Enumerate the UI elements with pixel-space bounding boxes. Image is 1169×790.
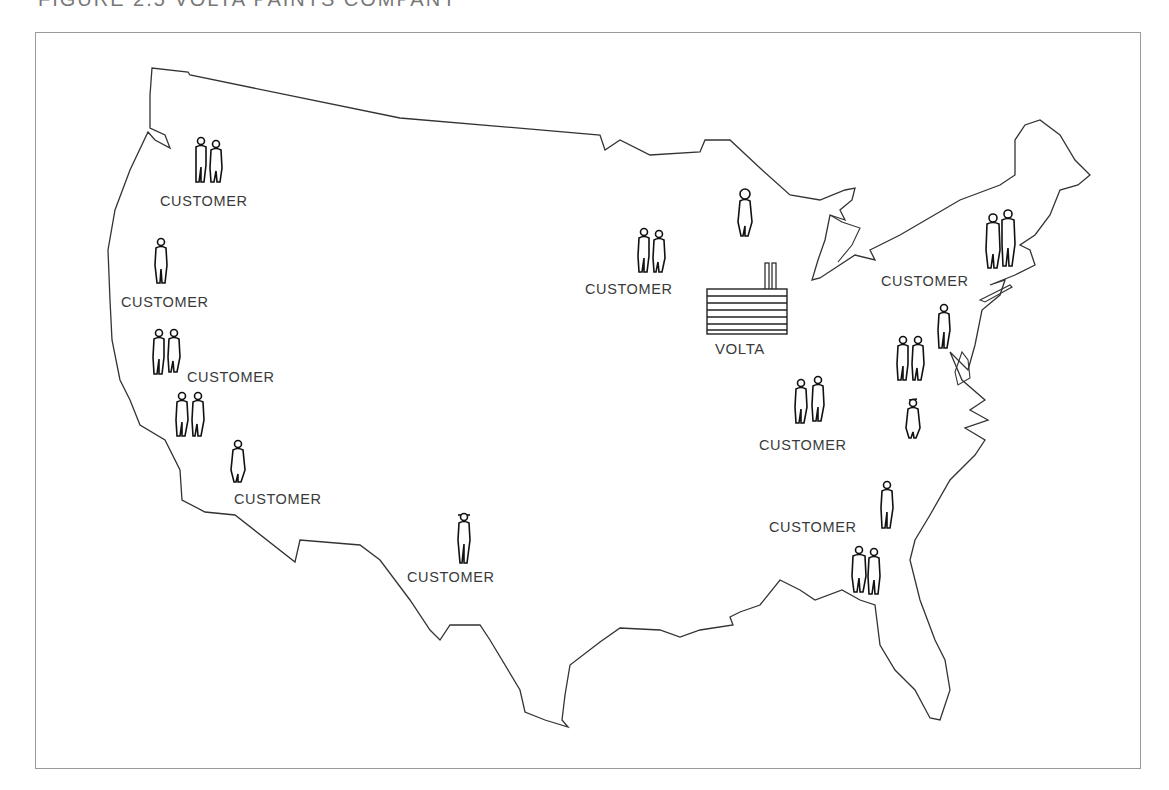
customer-pair-icon <box>192 135 226 185</box>
customer-mid-atlantic <box>894 334 928 386</box>
customer-single-icon <box>735 188 755 240</box>
customer-pair-icon <box>792 375 828 425</box>
customer-pair-icon <box>984 208 1018 272</box>
customer-midwest <box>635 226 669 280</box>
customer-single-icon <box>878 480 896 532</box>
customer-single-icon <box>455 510 473 566</box>
customer-carolinas <box>878 480 896 536</box>
customer-label: CUSTOMER <box>234 491 322 507</box>
customer-label: CUSTOMER <box>187 369 275 385</box>
customer-pair-icon <box>635 226 669 276</box>
customer-label: CUSTOMER <box>121 294 209 310</box>
customer-texas <box>455 510 473 570</box>
customer-pair-icon <box>894 334 928 382</box>
customer-great-lakes <box>735 188 755 244</box>
customer-southeast <box>850 544 884 600</box>
customer-label: CUSTOMER <box>585 281 673 297</box>
customer-pair-icon <box>150 327 184 377</box>
long-island <box>980 285 1012 302</box>
us-outline <box>108 68 1090 727</box>
customer-single-icon <box>153 237 169 287</box>
customer-ohio-valley <box>792 375 828 429</box>
customer-label: CUSTOMER <box>407 569 495 585</box>
customer-label: CUSTOMER <box>759 437 847 453</box>
customer-virginia <box>904 396 922 446</box>
customer-pair-icon <box>850 544 884 596</box>
customer-label: CUSTOMER <box>160 193 248 209</box>
customer-label: CUSTOMER <box>881 273 969 289</box>
customer-northern-california <box>150 327 184 381</box>
customer-single-icon <box>228 438 248 488</box>
customer-central-california <box>173 390 207 444</box>
customer-pair-icon <box>173 390 207 440</box>
volta-label: VOLTA <box>715 340 765 357</box>
customer-pacific-northwest <box>192 135 226 189</box>
customer-single-icon <box>935 302 953 352</box>
customer-label: CUSTOMER <box>769 519 857 535</box>
customer-single-icon <box>904 396 922 442</box>
customer-southern-california <box>228 438 248 492</box>
customer-new-england <box>984 208 1018 276</box>
volta-factory: VOLTA <box>705 258 791 338</box>
customer-new-york <box>935 302 953 356</box>
customer-oregon <box>153 237 169 291</box>
factory-icon <box>705 258 791 338</box>
